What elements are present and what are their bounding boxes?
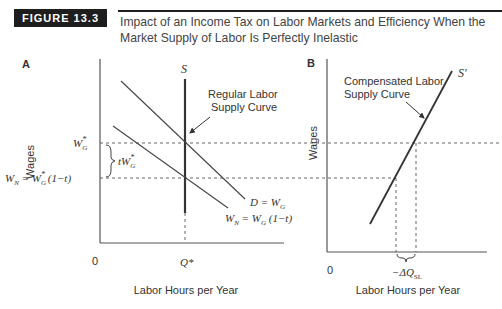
compensated-annotation-1: Compensated Labor xyxy=(344,75,444,87)
s-label: S xyxy=(181,62,187,76)
delta-q-brace xyxy=(397,254,415,262)
delta-q-label: −ΔQSL xyxy=(392,266,422,281)
panel-b-tag: B xyxy=(307,57,315,69)
net-demand-label: WN = WG (1−t) xyxy=(225,212,292,227)
panel-a-origin: 0 xyxy=(92,255,98,267)
panel-b-origin: 0 xyxy=(327,264,333,276)
figure-svg: A Wages S Regular Labor Supply Curve WG*… xyxy=(0,0,502,309)
panel-a-x-label: Labor Hours per Year xyxy=(134,284,239,296)
panel-b-y-label: Wages xyxy=(307,126,319,160)
q-star-label: Q* xyxy=(180,256,194,268)
tax-brace xyxy=(106,145,115,177)
compensated-annotation-arrow xyxy=(406,102,424,118)
s-prime-label: S' xyxy=(458,66,467,80)
tax-wedge-label: tWG* xyxy=(118,153,135,170)
annotation-arrow xyxy=(190,117,210,133)
panel-b-x-label: Labor Hours per Year xyxy=(356,284,461,296)
demand-label: D = WG xyxy=(249,196,285,211)
compensated-annotation-2: Supply Curve xyxy=(344,88,410,100)
panel-b: B Wages S' Compensated Labor Supply Curv… xyxy=(307,57,487,296)
panel-a: A Wages S Regular Labor Supply Curve WG*… xyxy=(5,58,500,296)
wn-label: WN = WG* (1−t) xyxy=(5,170,71,187)
regular-supply-annotation-2: Supply Curve xyxy=(211,101,277,113)
wg-star-label: WG* xyxy=(73,135,87,152)
regular-supply-annotation-1: Regular Labor xyxy=(208,88,278,100)
panel-a-tag: A xyxy=(22,58,30,70)
